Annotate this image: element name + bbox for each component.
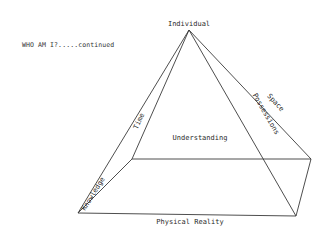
base-label: Physical Reality — [156, 218, 223, 226]
pyramid-diagram: Individual Understanding Physical Realit… — [0, 0, 331, 243]
edge-possessions — [189, 30, 296, 216]
edge-label-knowledge: Knowledge — [80, 176, 107, 212]
center-label: Understanding — [173, 134, 228, 142]
edge-base-right — [296, 159, 311, 216]
apex-label: Individual — [168, 20, 210, 28]
edge-base-front — [78, 213, 296, 216]
edge-label-time: Time — [132, 112, 146, 131]
